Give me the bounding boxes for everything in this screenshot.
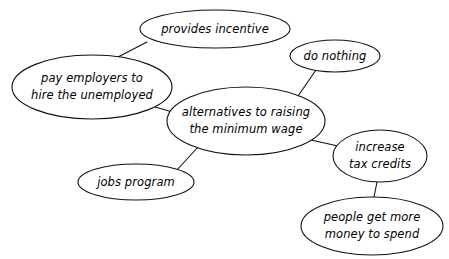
node-provides-incentive[interactable]: provides incentive: [140, 10, 290, 48]
node-label-alternatives-center-line-1: alternatives to raising: [182, 105, 310, 119]
node-label-people-get-more-money-line-2: money to spend: [325, 227, 420, 241]
edge-pay-employers-to-provides-incentive: [118, 42, 147, 57]
node-increase-tax-credits[interactable]: increasetax credits: [333, 130, 427, 182]
node-alternatives-center[interactable]: alternatives to raisingthe minimum wage: [167, 87, 325, 155]
node-label-jobs-program-line-1: jobs program: [95, 175, 175, 189]
node-label-increase-tax-credits-line-2: tax credits: [349, 157, 411, 171]
node-label-provides-incentive-line-1: provides incentive: [160, 22, 269, 36]
node-label-pay-employers-line-1: pay employers to: [40, 71, 143, 85]
edge-center-to-do-nothing: [296, 70, 316, 99]
node-label-increase-tax-credits-line-1: increase: [355, 140, 405, 154]
node-label-do-nothing-line-1: do nothing: [304, 49, 367, 63]
edge-tax-credits-to-people-money: [374, 182, 377, 197]
node-do-nothing[interactable]: do nothing: [290, 40, 380, 72]
node-label-pay-employers-line-2: hire the unemployed: [31, 88, 154, 102]
node-shape-alternatives-center[interactable]: [167, 87, 325, 155]
node-pay-employers[interactable]: pay employers tohire the unemployed: [12, 55, 172, 119]
edge-center-to-increase-tax-credits: [311, 140, 338, 146]
edge-center-to-jobs-program: [176, 146, 199, 171]
node-label-people-get-more-money-line-1: people get more: [323, 210, 421, 224]
concept-map-canvas: provides incentivedo nothingpay employer…: [0, 0, 449, 259]
node-people-get-more-money[interactable]: people get moremoney to spend: [301, 197, 443, 255]
node-shape-people-get-more-money[interactable]: [301, 197, 443, 255]
node-shape-increase-tax-credits[interactable]: [333, 130, 427, 182]
node-label-alternatives-center-line-2: the minimum wage: [189, 122, 302, 136]
node-shape-pay-employers[interactable]: [12, 55, 172, 119]
node-jobs-program[interactable]: jobs program: [78, 164, 194, 200]
nodes-layer: provides incentivedo nothingpay employer…: [12, 10, 443, 255]
diagram-svg: provides incentivedo nothingpay employer…: [0, 0, 449, 259]
